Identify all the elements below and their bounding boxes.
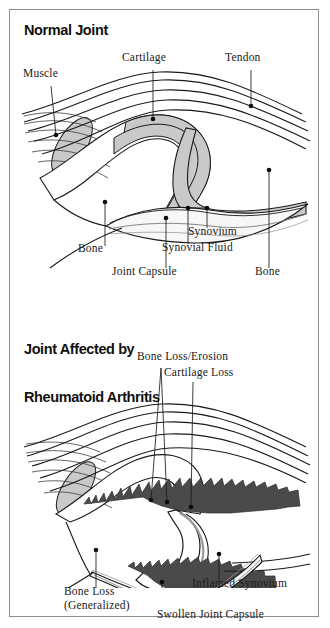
normal-joint-figure xyxy=(22,70,310,268)
label-bone-loss-erosion: Bone Loss/Erosion xyxy=(137,350,228,363)
ra-joint-title: Joint Affected by Rheumatoid Arthritis xyxy=(24,309,160,437)
dot-bone-loss-generalized xyxy=(94,548,99,553)
label-bone-loss-generalized: (Generalized) xyxy=(64,599,130,612)
dot-bone-left xyxy=(103,200,108,205)
label-joint-capsule: Joint Capsule xyxy=(112,265,177,278)
label-bone-right: Bone xyxy=(255,265,280,278)
label-bone-loss: Bone Loss xyxy=(64,585,115,598)
dot-bone-loss-erosion-b xyxy=(165,500,170,505)
dot-inflamed-synovium xyxy=(217,552,222,557)
label-synovium: Synovium xyxy=(188,225,237,238)
label-inflamed-synovium: Inflamed Synovium xyxy=(192,577,287,590)
dot-bone-right xyxy=(267,168,272,173)
dot-tendon xyxy=(249,104,254,109)
label-swollen-joint-capsule: Swollen Joint Capsule xyxy=(157,608,264,621)
label-tendon: Tendon xyxy=(225,51,261,64)
label-cartilage-loss: Cartilage Loss xyxy=(164,366,234,379)
dot-muscle xyxy=(54,133,59,138)
dot-bone-loss-erosion-a xyxy=(149,498,154,503)
illustration-frame: Normal Joint xyxy=(9,9,319,617)
illustration-page: Normal Joint xyxy=(0,0,330,628)
label-muscle: Muscle xyxy=(23,67,58,80)
ra-joint-title-line2: Rheumatoid Arthritis xyxy=(24,389,160,405)
label-bone-left: Bone xyxy=(78,242,103,255)
dot-synovial-fluid xyxy=(186,206,191,211)
dot-swollen-joint-capsule xyxy=(160,580,165,585)
label-synovial-fluid: Synovial Fluid xyxy=(162,241,233,254)
dot-joint-capsule xyxy=(164,216,169,221)
dot-cartilage-loss xyxy=(189,505,194,510)
dot-synovium xyxy=(205,206,210,211)
dot-cartilage xyxy=(151,117,156,122)
label-cartilage: Cartilage xyxy=(122,51,166,64)
